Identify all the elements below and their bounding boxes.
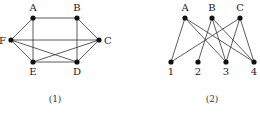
vertex-E bbox=[30, 59, 35, 64]
vertex-3 bbox=[223, 59, 228, 64]
vertex-1 bbox=[168, 59, 173, 64]
edge-C-4 bbox=[240, 18, 254, 62]
vertex-label-B: B bbox=[73, 2, 80, 13]
vertex-C bbox=[96, 37, 101, 42]
vertex-label-2: 2 bbox=[195, 66, 201, 77]
graph-diagram: ABCDEF(1) ABC1234(2) bbox=[0, 0, 260, 115]
vertex-2 bbox=[195, 59, 200, 64]
vertex-B bbox=[74, 15, 79, 20]
vertex-B bbox=[209, 15, 214, 20]
vertex-label-F: F bbox=[0, 35, 6, 46]
graph-caption: (1) bbox=[49, 94, 62, 104]
graph-2: ABC1234(2) bbox=[168, 2, 257, 104]
vertex-label-3: 3 bbox=[223, 66, 229, 77]
vertex-4 bbox=[251, 59, 256, 64]
vertex-label-E: E bbox=[29, 66, 36, 77]
edge-C-3 bbox=[226, 18, 240, 62]
vertex-label-1: 1 bbox=[168, 66, 174, 77]
edge-C-1 bbox=[171, 18, 240, 62]
vertex-C bbox=[237, 15, 242, 20]
vertex-label-A: A bbox=[180, 2, 189, 13]
graph-1: ABCDEF(1) bbox=[0, 2, 112, 104]
vertex-F bbox=[8, 37, 13, 42]
graph-caption: (2) bbox=[206, 94, 219, 104]
vertex-label-C: C bbox=[104, 35, 112, 46]
vertex-D bbox=[74, 59, 79, 64]
edge-B-3 bbox=[212, 18, 226, 62]
edge-B-C bbox=[77, 18, 99, 40]
vertex-A bbox=[30, 15, 35, 20]
vertex-A bbox=[182, 15, 187, 20]
edge-A-1 bbox=[171, 18, 185, 62]
vertex-label-4: 4 bbox=[251, 66, 257, 77]
vertex-label-A: A bbox=[28, 2, 37, 13]
vertex-label-D: D bbox=[73, 66, 81, 77]
vertex-label-B: B bbox=[208, 2, 215, 13]
vertex-label-C: C bbox=[236, 2, 244, 13]
edge-A-F bbox=[11, 18, 33, 40]
